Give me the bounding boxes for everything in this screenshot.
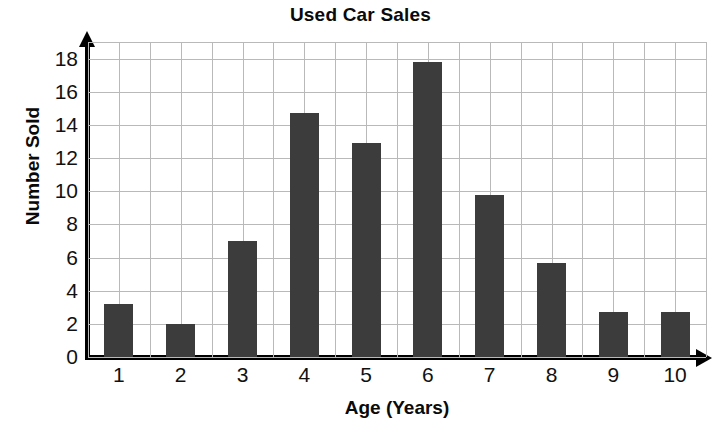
bar-9: [599, 312, 628, 357]
x-tick-label: 4: [282, 364, 326, 385]
x-tick-label: 3: [221, 364, 265, 385]
x-axis-title: Age (Years): [88, 397, 706, 419]
bar-1: [104, 304, 133, 357]
y-axis-title: Number Sold: [22, 61, 44, 271]
chart-title: Used Car Sales: [0, 4, 721, 26]
x-tick-label: 1: [97, 364, 141, 385]
x-tick-label: 8: [530, 364, 574, 385]
gridline-horizontal: [88, 357, 706, 358]
y-tick-label: 2: [36, 313, 78, 334]
bar-7: [475, 195, 504, 357]
gridline-vertical: [706, 42, 707, 357]
x-tick-label: 7: [468, 364, 512, 385]
x-tick-label: 9: [591, 364, 635, 385]
y-tick-label: 0: [36, 346, 78, 367]
bar-3: [228, 241, 257, 357]
x-tick-label: 5: [344, 364, 388, 385]
bar-2: [166, 324, 195, 357]
bar-6: [413, 62, 442, 357]
x-tick-label: 6: [406, 364, 450, 385]
x-tick-label: 2: [159, 364, 203, 385]
bar-10: [661, 312, 690, 357]
bar-4: [290, 113, 319, 357]
used-car-sales-bar-chart: Used Car Sales 024681012141618 123456789…: [0, 0, 721, 433]
bar-8: [537, 263, 566, 358]
x-tick-label: 10: [653, 364, 697, 385]
y-tick-label: 4: [36, 280, 78, 301]
bar-5: [352, 143, 381, 357]
plot-area: [88, 42, 706, 357]
bars-series: [88, 42, 706, 357]
